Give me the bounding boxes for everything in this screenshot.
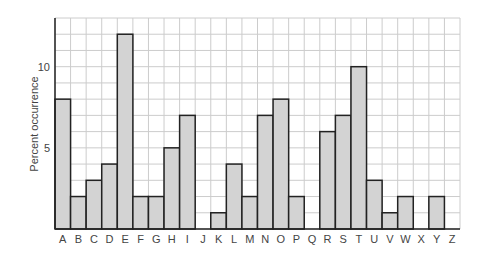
y-axis-label: Percent occurrence [28,76,40,171]
bar-V [382,213,398,229]
y-tick-label: 5 [44,142,50,154]
bar-E [117,34,133,229]
x-tick-label: V [386,233,394,245]
bar-O [273,99,289,229]
bar-B [71,197,87,229]
bar-I [180,115,196,229]
x-tick-label: K [215,233,223,245]
x-tick-label: I [186,233,189,245]
x-tick-label: S [340,233,347,245]
x-tick-label: Z [449,233,456,245]
bar-chart: ABCDEFGHIJKLMNOPQRSTUVWXYZ 510 Percent o… [0,0,487,253]
x-tick-label: H [168,233,176,245]
x-tick-label: F [137,233,144,245]
x-tick-labels: ABCDEFGHIJKLMNOPQRSTUVWXYZ [59,233,456,245]
x-tick-label: B [75,233,82,245]
x-tick-label: X [417,233,425,245]
x-tick-label: M [245,233,254,245]
bar-N [258,115,274,229]
bar-W [398,197,414,229]
bar-U [367,180,383,229]
bar-G [148,197,164,229]
x-tick-label: Y [433,233,441,245]
x-tick-label: R [324,233,332,245]
x-tick-label: A [59,233,67,245]
bar-P [289,197,305,229]
bar-H [164,148,180,229]
x-tick-label: J [200,233,206,245]
bar-K [211,213,227,229]
x-tick-label: O [277,233,286,245]
x-tick-label: N [261,233,269,245]
x-tick-label: C [90,233,98,245]
y-tick-label: 10 [38,61,50,73]
bar-S [335,115,351,229]
x-tick-label: E [121,233,128,245]
x-tick-label: D [106,233,114,245]
bar-C [86,180,102,229]
bar-R [320,132,336,229]
bar-D [102,164,118,229]
x-tick-label: Q [308,233,317,245]
x-tick-label: L [231,233,237,245]
bar-L [226,164,242,229]
bar-A [55,99,71,229]
bar-F [133,197,149,229]
bar-M [242,197,258,229]
x-tick-label: W [400,233,411,245]
bar-Y [429,197,445,229]
bar-T [351,67,367,229]
x-tick-label: T [355,233,362,245]
x-tick-label: G [152,233,161,245]
x-tick-label: P [293,233,300,245]
x-tick-label: U [370,233,378,245]
